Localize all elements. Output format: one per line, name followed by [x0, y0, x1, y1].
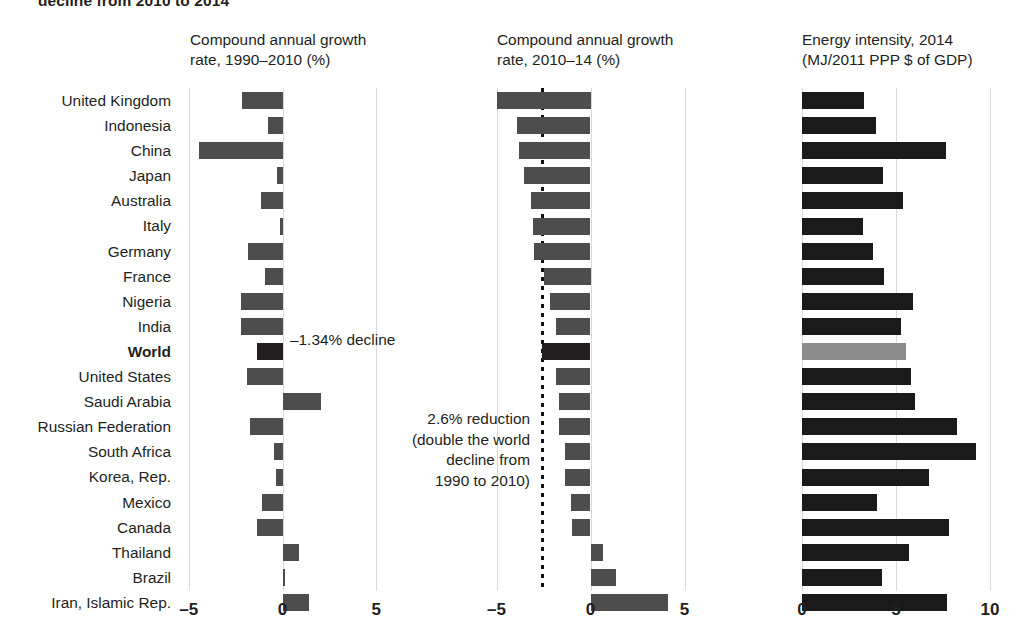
x-tick-label: 0 — [797, 600, 806, 620]
bar-row — [180, 138, 395, 163]
bar — [802, 544, 909, 561]
bar — [534, 243, 591, 260]
bar — [802, 218, 863, 235]
bar — [559, 393, 591, 410]
bar — [802, 117, 876, 134]
bar — [565, 469, 590, 486]
bar — [802, 368, 911, 385]
bar-row — [792, 364, 1004, 389]
bar-row — [180, 565, 395, 590]
bar-row — [487, 565, 697, 590]
bar-row — [792, 565, 1004, 590]
bar-row — [792, 465, 1004, 490]
panel-energy-intensity — [792, 88, 1004, 591]
bar-row — [792, 439, 1004, 464]
bar-row — [487, 515, 697, 540]
category-label: India — [0, 314, 175, 339]
bar — [802, 418, 957, 435]
category-label: France — [0, 264, 175, 289]
bar — [242, 92, 282, 109]
bar-row — [180, 515, 395, 540]
bar-row — [180, 214, 395, 239]
annotation-reduction: 2.6% reduction (double the world decline… — [330, 409, 530, 491]
bar-row — [180, 88, 395, 113]
bar — [531, 192, 590, 209]
bar — [802, 268, 884, 285]
bar — [280, 218, 283, 235]
bar-row — [792, 113, 1004, 138]
bar-row — [792, 540, 1004, 565]
category-label: Nigeria — [0, 289, 175, 314]
bar-row — [792, 163, 1004, 188]
bar — [802, 443, 976, 460]
bar — [247, 368, 282, 385]
category-label: Mexico — [0, 490, 175, 515]
bar — [556, 318, 591, 335]
category-label: Saudi Arabia — [0, 389, 175, 414]
category-label: Russian Federation — [0, 414, 175, 439]
bar — [250, 418, 283, 435]
bar-row — [792, 88, 1004, 113]
bar — [802, 192, 903, 209]
bar-row — [487, 138, 697, 163]
bar-row — [792, 339, 1004, 364]
x-tick-label: 0 — [278, 600, 287, 620]
bar — [556, 368, 591, 385]
bar — [802, 293, 913, 310]
bar — [802, 594, 947, 611]
bar-row — [792, 414, 1004, 439]
bar — [261, 192, 283, 209]
x-tick-label: 5 — [891, 600, 900, 620]
category-label: Canada — [0, 515, 175, 540]
bar — [277, 167, 283, 184]
bar — [283, 544, 299, 561]
category-label: United Kingdom — [0, 88, 175, 113]
bar — [268, 117, 283, 134]
figure-title: decline from 2010 to 2014 — [38, 0, 229, 10]
bar — [571, 494, 591, 511]
x-tick-label: 0 — [586, 600, 595, 620]
category-label: Australia — [0, 188, 175, 213]
bar-row — [487, 88, 697, 113]
panel-header-cagr-1990-2010: Compound annual growth rate, 1990–2010 (… — [190, 30, 366, 70]
bar-row — [792, 289, 1004, 314]
bar-row — [487, 540, 697, 565]
bar-row — [180, 264, 395, 289]
bar — [802, 167, 883, 184]
bar-row — [180, 113, 395, 138]
bar — [802, 142, 946, 159]
bar — [517, 117, 591, 134]
bar — [802, 318, 901, 335]
bar — [544, 268, 591, 285]
bar-row — [487, 113, 697, 138]
bar — [802, 243, 873, 260]
x-tick-label: –5 — [487, 600, 506, 620]
bar-row — [487, 239, 697, 264]
bar-row — [792, 188, 1004, 213]
bar-row — [487, 364, 697, 389]
category-label: Japan — [0, 163, 175, 188]
panel-header-energy-intensity: Energy intensity, 2014 (MJ/2011 PPP $ of… — [802, 30, 973, 70]
category-label: Indonesia — [0, 113, 175, 138]
bar-row — [487, 264, 697, 289]
category-label: Korea, Rep. — [0, 464, 175, 489]
bar — [542, 343, 591, 360]
bar-row — [792, 515, 1004, 540]
category-label: Germany — [0, 239, 175, 264]
bar-row — [487, 289, 697, 314]
bar-row — [180, 188, 395, 213]
bar — [497, 92, 591, 109]
bar — [802, 569, 882, 586]
bar-row — [792, 239, 1004, 264]
bar — [248, 243, 282, 260]
bar — [802, 92, 864, 109]
bar — [802, 519, 949, 536]
category-label: United States — [0, 364, 175, 389]
bar-row — [792, 214, 1004, 239]
bar — [265, 268, 282, 285]
bar — [591, 544, 604, 561]
bar — [802, 494, 877, 511]
bar-row — [180, 490, 395, 515]
bar-row — [487, 188, 697, 213]
bar — [241, 293, 282, 310]
